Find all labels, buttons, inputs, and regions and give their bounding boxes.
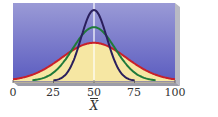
x-tick-100: 100	[165, 86, 186, 99]
x-axis-label: X	[90, 99, 99, 113]
x-tick-25: 25	[46, 86, 60, 99]
x-tick-75: 75	[127, 86, 141, 99]
chart-canvas	[0, 0, 218, 117]
x-tick-0: 0	[10, 86, 17, 99]
